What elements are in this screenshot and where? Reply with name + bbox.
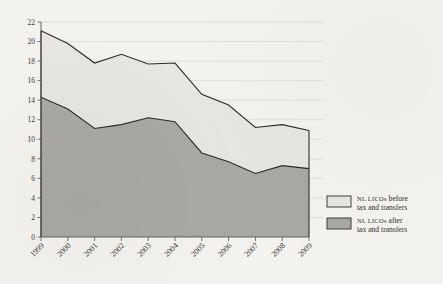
y-tick-label: 6 xyxy=(31,174,35,183)
plot-areas xyxy=(41,31,309,237)
y-tick-label: 10 xyxy=(28,135,36,144)
y-tick-label: 0 xyxy=(31,233,35,242)
x-axis-ticks: 1999200020012002200320042005200620072008… xyxy=(28,237,314,259)
y-tick-label: 20 xyxy=(28,37,36,46)
legend-label-line2: tax and transfers xyxy=(357,225,407,234)
x-tick-label: 2009 xyxy=(296,241,314,259)
x-tick-label: 2002 xyxy=(109,241,127,259)
x-tick-label: 2001 xyxy=(82,241,100,259)
y-tick-label: 18 xyxy=(28,57,36,66)
y-tick-label: 12 xyxy=(28,115,36,124)
y-tick-label: 22 xyxy=(28,18,36,27)
chart-canvas: 0246810121416182022 19992000200120022003… xyxy=(0,0,443,284)
y-tick-label: 4 xyxy=(31,194,35,203)
x-tick-label: 2006 xyxy=(216,241,234,259)
x-tick-label: 2005 xyxy=(189,241,207,259)
legend-swatch xyxy=(327,218,351,229)
x-tick-label: 2007 xyxy=(243,241,261,259)
y-tick-label: 2 xyxy=(31,213,35,222)
area-chart: 0246810121416182022 19992000200120022003… xyxy=(0,0,443,284)
y-axis-ticks: 0246810121416182022 xyxy=(28,18,42,242)
x-tick-label: 2008 xyxy=(269,241,287,259)
legend-swatch xyxy=(327,196,351,207)
x-tick-label: 1999 xyxy=(28,241,46,259)
chart-legend: NL LICOs beforetax and transfersNL LICOs… xyxy=(327,194,409,233)
x-tick-label: 2000 xyxy=(55,241,73,259)
x-tick-label: 2003 xyxy=(135,241,153,259)
y-tick-label: 8 xyxy=(31,155,35,164)
legend-label-line2: tax and transfers xyxy=(357,203,407,212)
y-tick-label: 16 xyxy=(28,76,36,85)
y-tick-label: 14 xyxy=(28,96,36,105)
x-tick-label: 2004 xyxy=(162,241,180,259)
